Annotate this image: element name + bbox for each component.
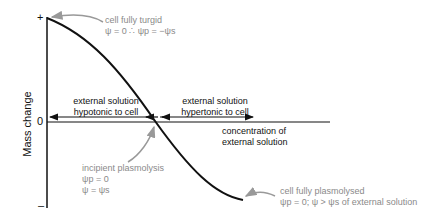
x-axis-label: concentration ofexternal solution	[222, 126, 288, 148]
y-plus-label: +	[37, 11, 43, 23]
incipient-plasmolysis-annotation: incipient plasmolysisψp = 0ψ = ψs	[82, 163, 164, 196]
hypertonic-label: external solutionhypertonic to cell	[170, 96, 260, 118]
y-zero-label: 0	[37, 115, 43, 127]
y-minus-label: –	[38, 199, 44, 211]
plasmolysed-annotation: cell fully plasmolysedψp = 0; ψ > ψs of …	[280, 186, 417, 208]
y-axis-label: Mass change	[21, 89, 33, 159]
hypotonic-label: external solutionhypotonic to cell	[66, 96, 146, 118]
diagram: + 0 – Mass change external solutionhypot…	[0, 0, 424, 222]
turgid-annotation: cell fully turgidψ = 0 ∴ ψp = −ψs	[105, 15, 176, 37]
